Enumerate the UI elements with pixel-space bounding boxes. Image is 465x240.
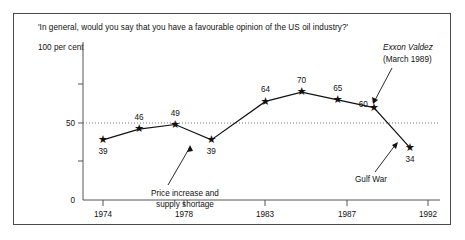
xtick-label-1992: 1992 (419, 210, 438, 219)
star-marker: ★ (405, 141, 415, 153)
exxon-valdez-leader (374, 68, 392, 102)
exxon-valdez-line1: Exxon Valdez (383, 43, 433, 52)
point-label: 60 (359, 100, 369, 109)
data-markers: ★★★★★★★★★ (98, 85, 415, 152)
point-label: 34 (405, 155, 415, 164)
xtick-label-1983: 1983 (256, 210, 275, 219)
point-label: 64 (261, 85, 271, 94)
price-increase-line2: supply shortage (156, 200, 214, 209)
ytick-label-0: 0 (70, 196, 75, 205)
chart-plot: 50 0 1974 1978 1983 1987 1992 ★★★★★★★★★ … (0, 0, 465, 240)
ytick-label-50: 50 (66, 119, 76, 128)
star-marker: ★ (206, 133, 216, 145)
gulf-war-leader (375, 144, 396, 172)
point-label: 46 (135, 113, 145, 122)
star-marker: ★ (297, 85, 307, 97)
point-label: 39 (207, 147, 217, 156)
star-marker: ★ (333, 93, 343, 105)
star-marker: ★ (261, 95, 271, 107)
star-marker: ★ (98, 133, 108, 145)
price-increase-line1: Price increase and (151, 189, 219, 198)
price-increase-arrowhead (187, 145, 193, 152)
star-marker: ★ (170, 118, 180, 130)
point-label: 49 (171, 109, 181, 118)
point-label: 70 (297, 76, 307, 85)
xtick-label-1974: 1974 (94, 210, 113, 219)
point-label: 65 (333, 84, 343, 93)
exxon-valdez-line2: (March 1989) (383, 55, 432, 64)
data-point-labels: 394649396470656034 (98, 76, 414, 163)
price-increase-leader (168, 147, 190, 185)
star-marker: ★ (134, 122, 144, 134)
xtick-label-1978: 1978 (175, 210, 194, 219)
xtick-label-1987: 1987 (338, 210, 357, 219)
point-label: 39 (98, 147, 108, 156)
gulf-war-label: Gulf War (355, 175, 387, 184)
